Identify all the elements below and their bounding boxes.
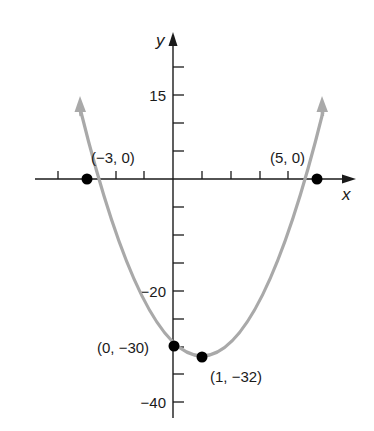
- point-label-neg3-0: (−3, 0): [91, 149, 135, 166]
- y-axis-label: y: [155, 31, 166, 50]
- parabola-curve: [75, 96, 329, 356]
- point-neg3-0: [82, 174, 93, 185]
- point-1-neg32: [197, 352, 208, 363]
- y-tick-label-neg40: −40: [141, 394, 166, 411]
- y-ticks: [173, 67, 184, 402]
- point-label-1-neg32: (1, −32): [210, 368, 262, 385]
- data-points: (−3, 0) (5, 0) (0, −30) (1, −32): [82, 149, 323, 385]
- point-label-0-neg30: (0, −30): [97, 339, 149, 356]
- point-5-0: [312, 174, 323, 185]
- x-axis-label: x: [341, 185, 351, 204]
- point-0-neg30: [169, 341, 180, 352]
- x-axis-arrow-icon: [342, 175, 356, 184]
- point-label-5-0: (5, 0): [270, 149, 305, 166]
- y-tick-label-15: 15: [149, 87, 166, 104]
- y-axis-arrow-icon: [169, 32, 178, 46]
- parabola-chart: x y 15 −20 −40 (: [0, 0, 374, 431]
- y-axis: y 15 −20 −40: [141, 31, 184, 418]
